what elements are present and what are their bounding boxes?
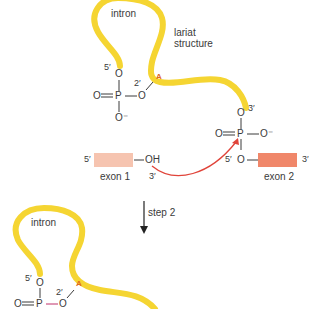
exon2-phosphate-right-o: O⁻ (260, 129, 273, 139)
bond-o-branch (146, 82, 153, 90)
exon2-5prime: 5′ (225, 155, 232, 164)
phosphate-bottom-o: O⁻ (115, 113, 128, 123)
exon2-o: O (237, 155, 245, 165)
step2-label: step 2 (148, 208, 175, 218)
branch-a-marker-bottom: A (76, 280, 82, 288)
phosphate-left-o: O (93, 91, 101, 101)
exon2-phosphate-p: P (237, 129, 244, 139)
nucleophilic-attack-arrow (152, 142, 236, 176)
splicing-diagram: intron lariat structure A 5′ O 2′ O P O … (0, 0, 322, 309)
attack-arrowhead (232, 138, 239, 145)
intron-o-top-bottom: O (36, 278, 44, 288)
exon1-box (94, 153, 133, 167)
bottom-bond-o-branch (67, 290, 74, 298)
step2-arrowhead (140, 226, 148, 234)
lariat-label-line1: lariat (174, 28, 196, 38)
lariat-3prime-o: O (237, 108, 245, 118)
exon1-3prime: 3′ (149, 172, 156, 181)
branch-2prime-bottom: 2′ (56, 288, 63, 297)
branch-2prime: 2′ (134, 79, 141, 88)
exon2-label: exon 2 (264, 172, 294, 182)
exon1-label: exon 1 (100, 172, 130, 182)
intron-5prime-bottom: 5′ (25, 274, 32, 283)
phosphate-p-bottom: P (36, 299, 43, 309)
phosphate-right-o: O (138, 91, 146, 101)
intron-5prime: 5′ (104, 63, 111, 72)
exon2-phosphate-left-o: O (215, 129, 223, 139)
intron-o-top: O (115, 69, 123, 79)
branch-a-marker: A (156, 73, 162, 81)
lariat-3prime: 3′ (248, 104, 255, 113)
phosphate-p: P (115, 91, 122, 101)
diagram-graphics (0, 0, 322, 309)
lariat-label-line2: structure (174, 39, 213, 49)
exon2-box (258, 153, 297, 167)
exon2-3prime: 3′ (302, 155, 309, 164)
exon1-oh: OH (145, 155, 160, 165)
intron-label-bottom: intron (31, 218, 56, 228)
exon1-5prime: 5′ (84, 155, 91, 164)
phosphate-left-o-bottom: O (14, 299, 22, 309)
intron-label: intron (111, 9, 136, 19)
phosphate-right-o-bottom: O (59, 299, 67, 309)
